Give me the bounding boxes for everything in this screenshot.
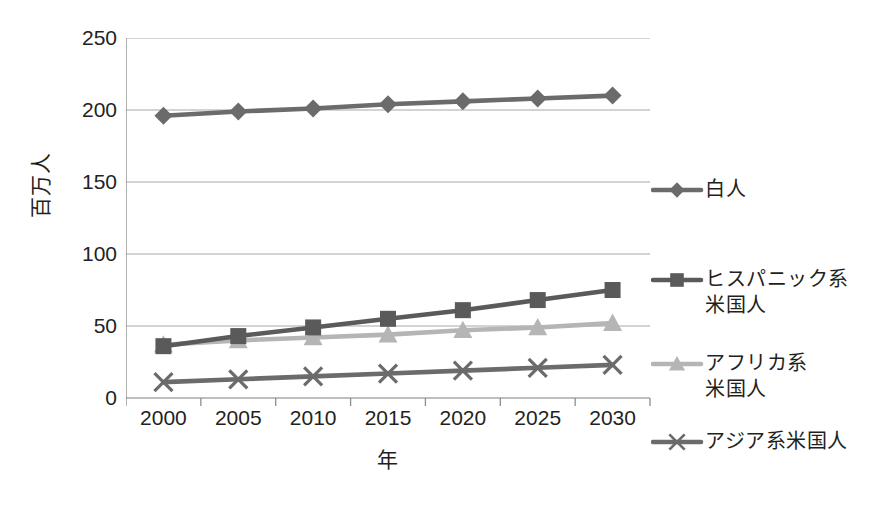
legend-item-label: アジア系米国人 bbox=[705, 428, 848, 454]
x-tick-label: 2025 bbox=[498, 406, 578, 430]
legend-item[interactable]: アフリカ系 米国人 bbox=[651, 350, 808, 402]
square-marker-icon bbox=[651, 266, 705, 290]
plot-svg bbox=[126, 38, 662, 420]
legend-item-label: ヒスパニック系 米国人 bbox=[705, 266, 849, 318]
series-marker bbox=[229, 102, 247, 120]
y-tick-label: 250 bbox=[57, 27, 117, 48]
series-marker bbox=[529, 89, 547, 107]
x-tick-label: 2020 bbox=[423, 406, 503, 430]
y-axis-tick-labels: 050100150200250 bbox=[55, 0, 117, 507]
series-marker bbox=[454, 92, 472, 110]
series-marker bbox=[155, 338, 171, 354]
series-marker bbox=[604, 87, 622, 105]
legend-item[interactable]: アジア系米国人 bbox=[651, 428, 848, 454]
chart-figure: 百万人 050100150200250 20002005201020152020… bbox=[0, 0, 887, 507]
series-marker bbox=[455, 302, 471, 318]
series-marker bbox=[305, 319, 321, 335]
x-axis-title: 年 bbox=[126, 443, 650, 473]
legend-item-label: アフリカ系 米国人 bbox=[705, 350, 808, 402]
x-axis-tick-labels: 2000200520102015202020252030 bbox=[126, 406, 650, 436]
plot-area bbox=[126, 38, 650, 398]
y-tick-label: 0 bbox=[57, 387, 117, 408]
x-tick-label: 2030 bbox=[573, 406, 653, 430]
y-tick-label: 200 bbox=[57, 99, 117, 120]
series-marker bbox=[230, 328, 246, 344]
y-axis-title: 百万人 bbox=[24, 110, 54, 260]
x-marker-icon bbox=[651, 428, 705, 452]
series-marker bbox=[304, 100, 322, 118]
y-tick-label: 150 bbox=[57, 171, 117, 192]
x-tick-label: 2000 bbox=[123, 406, 203, 430]
series-marker bbox=[380, 311, 396, 327]
series-marker bbox=[605, 282, 621, 298]
y-tick-label: 50 bbox=[57, 315, 117, 336]
legend-item[interactable]: ヒスパニック系 米国人 bbox=[651, 266, 849, 318]
series-marker bbox=[530, 292, 546, 308]
y-tick-label: 100 bbox=[57, 243, 117, 264]
diamond-marker-icon bbox=[651, 176, 705, 200]
x-tick-label: 2015 bbox=[348, 406, 428, 430]
triangle-marker-icon bbox=[651, 350, 705, 374]
x-tick-label: 2005 bbox=[198, 406, 278, 430]
legend-item-label: 白人 bbox=[705, 176, 746, 202]
legend-item[interactable]: 白人 bbox=[651, 176, 746, 202]
x-tick-label: 2010 bbox=[273, 406, 353, 430]
